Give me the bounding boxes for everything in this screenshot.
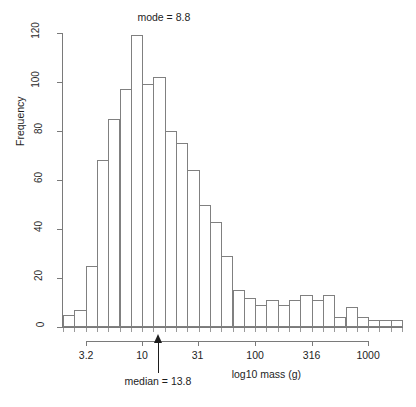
y-axis-tick [57, 278, 62, 279]
x-axis-tick-label: 1000 [356, 349, 379, 361]
x-axis-bin-tick [289, 328, 290, 332]
x-axis-bin-tick [391, 328, 392, 332]
x-axis-bin-tick [165, 328, 166, 332]
median-arrow-head-icon [154, 334, 162, 343]
x-axis-bin-tick [153, 328, 154, 332]
x-axis-tick [255, 341, 256, 346]
x-axis-bin-tick [120, 328, 121, 332]
mode-annotation: mode = 8.8 [137, 11, 190, 23]
x-axis-bin-tick [278, 328, 279, 332]
x-axis-tick-label: 3.2 [79, 349, 94, 361]
x-axis-bin-tick [142, 328, 143, 332]
x-axis-bin-tick [221, 328, 222, 332]
median-arrow-shaft [158, 342, 159, 373]
x-axis-tick [198, 341, 199, 346]
y-axis-tick-label: 20 [0, 270, 44, 281]
x-axis-bin-tick [255, 328, 256, 332]
x-axis-bin-tick [300, 328, 301, 332]
x-axis-bin-tick [199, 328, 200, 332]
x-axis-bin-tick [334, 328, 335, 332]
histogram-bar [391, 320, 403, 327]
x-axis-tick-label: 100 [246, 349, 264, 361]
x-axis-bin-tick [323, 328, 324, 332]
x-axis-bin-tick [266, 328, 267, 332]
x-axis-bin-tick [86, 328, 87, 332]
y-axis-tick-label: 40 [0, 221, 44, 232]
x-axis-bin-tick [74, 328, 75, 332]
y-axis-tick [57, 327, 62, 328]
y-axis-tick [57, 229, 62, 230]
y-axis-tick [57, 33, 62, 34]
x-axis-title: log10 mass (g) [232, 368, 301, 380]
x-axis-tick [142, 341, 143, 346]
x-axis-bin-tick [108, 328, 109, 332]
x-axis-bin-tick [379, 328, 380, 332]
x-axis-bin-tick [131, 328, 132, 332]
x-axis-tick-label: 10 [136, 349, 148, 361]
x-axis-bin-tick [97, 328, 98, 332]
y-axis-tick [57, 82, 62, 83]
x-axis-bin-tick [346, 328, 347, 332]
x-axis-tick [312, 341, 313, 346]
x-axis-tick-label: 31 [192, 349, 204, 361]
y-axis-tick [57, 180, 62, 181]
x-axis-tick [368, 341, 369, 346]
y-axis-tick-label: 100 [0, 74, 44, 85]
x-axis-bin-tick [402, 328, 403, 332]
x-axis-bin-tick [368, 328, 369, 332]
x-axis-bin-tick [176, 328, 177, 332]
x-axis-bin-tick [210, 328, 211, 332]
y-axis-tick [57, 131, 62, 132]
x-axis-bin-tick [233, 328, 234, 332]
y-axis-tick-label: 120 [0, 25, 44, 36]
histogram-figure: mode = 8.8 Frequency 020406080100120 3.2… [0, 0, 416, 407]
x-axis-tick [86, 341, 87, 346]
x-axis-bin-tick [312, 328, 313, 332]
plot-area [63, 33, 402, 327]
x-axis-bin-tick [244, 328, 245, 332]
y-axis-title: Frequency [14, 96, 26, 146]
x-axis-tick-label: 316 [303, 349, 321, 361]
y-axis-tick-label: 80 [0, 123, 44, 134]
x-axis-bin-tick [357, 328, 358, 332]
x-axis-bin-tick [187, 328, 188, 332]
median-annotation: median = 13.8 [124, 375, 191, 387]
y-axis-tick-label: 60 [0, 172, 44, 183]
histogram-bars [63, 33, 402, 327]
y-axis-tick-label: 0 [0, 319, 44, 330]
x-axis-scale-line [86, 341, 368, 342]
figure-root: mode = 8.8 Frequency 020406080100120 3.2… [0, 0, 416, 407]
x-axis-bin-tick [63, 328, 64, 332]
